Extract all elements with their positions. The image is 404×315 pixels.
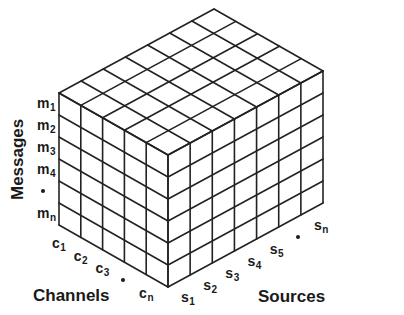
grid-line [168,115,323,199]
message-label-2: m2 [37,118,56,135]
source-label-5-base: s [270,241,278,257]
channel-label-1-subscript: 1 [60,242,66,253]
source-label-2-base: s [203,277,211,293]
message-label-2-base: m [37,117,49,133]
grid-line [170,33,279,95]
source-label-4-subscript: 4 [256,260,262,271]
grid-line [81,81,190,143]
source-label-1-base: s [181,289,189,305]
message-label-6-base: m [37,205,49,221]
source-label-7: sn [314,218,328,235]
grid-line [168,159,323,243]
source-label-1-subscript: 1 [189,296,195,307]
channel-label-3: c3 [96,261,110,278]
message-label-5-ellipsis-dot [41,189,45,193]
grid-line [168,203,323,287]
channel-label-1: c1 [52,236,66,253]
source-label-3-base: s [225,265,233,281]
grid-line [168,137,323,221]
source-label-7-base: s [314,217,322,233]
message-label-1: m1 [37,96,56,113]
source-label-3-subscript: 3 [234,272,240,283]
grid-line [81,21,236,105]
message-label-4-subscript: 4 [50,168,56,179]
channel-label-1-base: c [52,235,60,251]
grid-line [168,93,323,177]
messages-axis-title: Messages [8,120,28,200]
channels-axis-title: Channels [33,286,110,306]
source-label-1: s1 [181,290,195,307]
grid-line [192,21,301,83]
sources-axis-title: Sources [258,287,325,307]
message-label-6-subscript: n [50,212,56,223]
grid-line [103,69,212,131]
channel-label-3-base: c [96,260,104,276]
message-label-4: m4 [37,162,56,179]
message-label-3: m3 [37,140,56,157]
grid-line [168,71,323,155]
source-label-2: s2 [203,278,217,295]
channel-label-5-subscript: n [147,292,153,303]
source-label-4-base: s [248,253,256,269]
source-label-5: s5 [270,242,284,259]
message-label-3-subscript: 3 [50,146,56,157]
message-label-2-subscript: 2 [50,124,56,135]
channel-label-2: c2 [74,249,88,266]
message-label-3-base: m [37,139,49,155]
source-label-3: s3 [225,266,239,283]
source-label-6-ellipsis-dot [296,235,300,239]
message-label-1-base: m [37,95,49,111]
source-label-2-subscript: 2 [212,284,218,295]
message-label-6: mn [37,206,56,223]
source-label-4: s4 [248,254,262,271]
message-label-4-base: m [37,161,49,177]
grid-line [168,181,323,265]
message-label-1-subscript: 1 [50,102,56,113]
channel-label-5-base: c [139,285,147,301]
grid-cube [0,0,404,315]
channel-label-5: cn [139,286,153,303]
source-label-5-subscript: 5 [278,248,284,259]
grid-line [214,9,323,71]
channel-label-3-subscript: 3 [104,267,110,278]
grid-line [148,45,257,107]
grid-line [125,57,234,119]
message-channel-source-cube-diagram: Messages Channels Sources m1m2m3m4mnc1c2… [0,0,404,315]
channel-label-2-base: c [74,248,82,264]
source-label-7-subscript: n [322,224,328,235]
channel-label-2-subscript: 2 [82,255,88,266]
grid-line [103,34,258,118]
grid-line [59,9,214,93]
